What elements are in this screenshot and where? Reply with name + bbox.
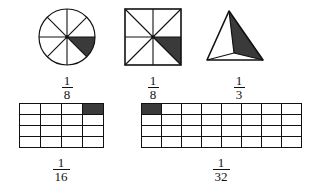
grid-cell	[61, 126, 82, 137]
grid-cell	[40, 115, 61, 126]
grid-cell	[281, 137, 301, 148]
grid-cell	[82, 126, 103, 137]
grid-cell	[221, 104, 241, 115]
grid-cell	[261, 137, 281, 148]
grid-cell-shaded	[141, 104, 161, 115]
grid-cell	[161, 137, 181, 148]
fraction-label-triangle: 1 3	[234, 71, 245, 102]
grid-cell	[141, 115, 161, 126]
triangle-shape	[204, 6, 274, 68]
grid-cell	[161, 126, 181, 137]
fraction-denominator: 32	[213, 170, 230, 183]
grid-cell	[19, 104, 40, 115]
grid-cell	[201, 104, 221, 115]
grid-row	[19, 115, 103, 126]
grid-cell	[241, 137, 261, 148]
circle-shaded-sector	[67, 37, 95, 57]
grid-cell	[40, 137, 61, 148]
grid-cell	[181, 104, 201, 115]
fraction-denominator: 8	[62, 88, 73, 101]
fraction-diagram: 1 8 1 8	[0, 0, 322, 194]
grid-cell	[201, 137, 221, 148]
grid-cell	[281, 115, 301, 126]
grid-cell	[261, 126, 281, 137]
grid-cell	[181, 115, 201, 126]
grid-cell	[61, 137, 82, 148]
figure-triangle-thirds: 1 3	[204, 6, 274, 102]
grid-cell	[61, 104, 82, 115]
grid-cell	[241, 115, 261, 126]
grid-cell	[61, 115, 82, 126]
grid-row	[141, 115, 301, 126]
grid-cell	[161, 104, 181, 115]
grid-cell	[141, 137, 161, 148]
fraction-denominator: 8	[148, 88, 159, 101]
grid-cell	[221, 137, 241, 148]
figure-grid-sixteenths: 1 16	[18, 103, 104, 184]
fraction-denominator: 16	[53, 170, 70, 183]
grid-cell	[201, 115, 221, 126]
grid-cell	[141, 126, 161, 137]
figure-square-eighths: 1 8	[122, 6, 184, 102]
grid-row	[19, 126, 103, 137]
grid-thirtyseconds	[141, 103, 302, 148]
fraction-numerator: 1	[216, 156, 227, 169]
grid-cell	[241, 104, 261, 115]
grid-cell	[261, 115, 281, 126]
grid-cell	[161, 115, 181, 126]
grid-row	[141, 137, 301, 148]
grid-row	[141, 104, 301, 115]
figure-circle-eighths: 1 8	[36, 6, 98, 102]
grid-row	[141, 126, 301, 137]
grid-body-32	[141, 104, 301, 148]
grid-cell	[181, 137, 201, 148]
grid-cell	[40, 126, 61, 137]
grid-cell	[19, 115, 40, 126]
fraction-numerator: 1	[62, 74, 73, 87]
fraction-label-circle: 1 8	[62, 71, 73, 102]
grid-cell-shaded	[82, 104, 103, 115]
grid-cell	[82, 115, 103, 126]
circle-shape	[36, 6, 98, 68]
fraction-numerator: 1	[234, 74, 245, 87]
figure-grid-thirtyseconds: 1 32	[140, 103, 302, 184]
grid-cell	[201, 126, 221, 137]
fraction-numerator: 1	[56, 156, 67, 169]
grid-cell	[19, 137, 40, 148]
grid-cell	[281, 104, 301, 115]
grid-cell	[181, 126, 201, 137]
grid-cell	[221, 115, 241, 126]
square-shape	[122, 6, 184, 68]
fraction-label-square: 1 8	[148, 71, 159, 102]
fraction-label-grid32: 1 32	[213, 153, 230, 184]
grid-body-16	[19, 104, 103, 148]
fraction-numerator: 1	[148, 74, 159, 87]
grid-cell	[19, 126, 40, 137]
grid-cell	[241, 126, 261, 137]
grid-row	[19, 137, 103, 148]
grid-cell	[221, 126, 241, 137]
grid-cell	[40, 104, 61, 115]
grid-row	[19, 104, 103, 115]
fraction-label-grid16: 1 16	[53, 153, 70, 184]
fraction-denominator: 3	[234, 88, 245, 101]
grid-cell	[82, 137, 103, 148]
grid-sixteenths	[19, 103, 104, 148]
grid-cell	[261, 104, 281, 115]
grid-cell	[281, 126, 301, 137]
